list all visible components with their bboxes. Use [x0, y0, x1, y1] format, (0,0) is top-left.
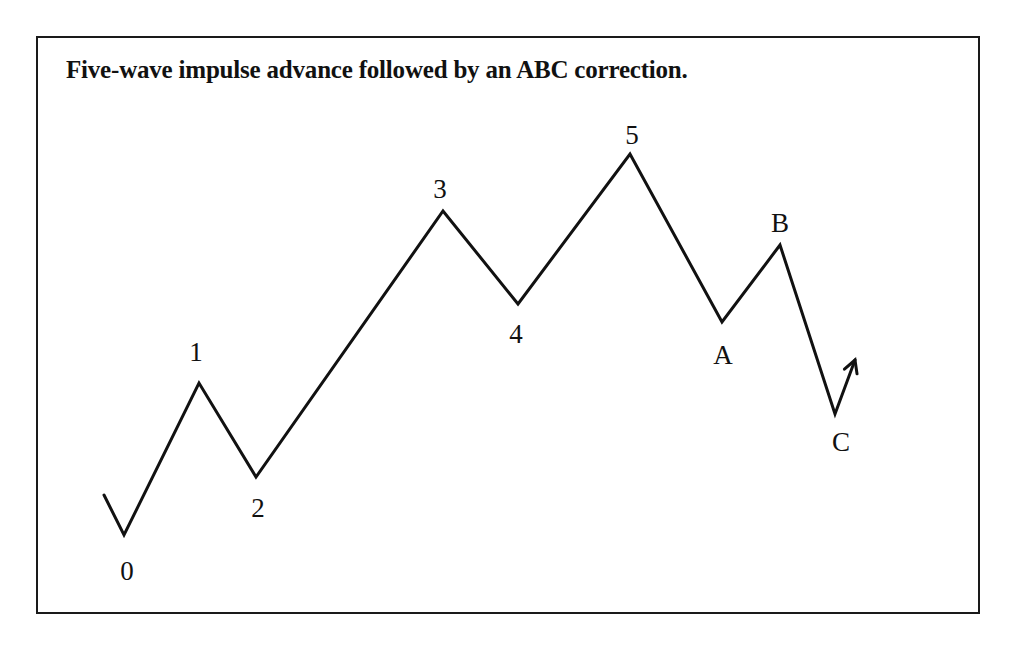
- wave-label-c: C: [832, 427, 850, 457]
- wave-label-a: A: [713, 340, 733, 370]
- wave-label-4: 4: [509, 319, 523, 349]
- wave-label-b: B: [771, 208, 789, 238]
- elliott-wave-diagram: 012345ABC: [0, 0, 1024, 646]
- wave-label-3: 3: [433, 174, 447, 204]
- wave-label-0: 0: [120, 556, 134, 586]
- wave-label-1: 1: [189, 337, 203, 367]
- wave-path: [104, 154, 855, 535]
- wave-label-5: 5: [625, 120, 639, 150]
- wave-labels: 012345ABC: [120, 120, 850, 586]
- wave-label-2: 2: [251, 493, 265, 523]
